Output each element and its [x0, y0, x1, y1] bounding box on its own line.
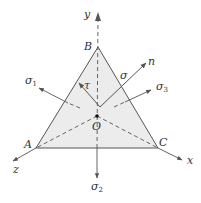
y-axis-arrowhead-icon	[95, 12, 101, 21]
label-c: C	[159, 137, 167, 148]
label-sigma: σ	[120, 70, 128, 81]
sigma2-symbol: σ	[91, 180, 99, 193]
sigma1-subscript: 1	[33, 80, 37, 88]
sigma3-subscript: 3	[164, 86, 168, 94]
label-sigma2: σ2	[91, 181, 103, 194]
label-a: A	[24, 139, 32, 150]
label-sigma1: σ1	[25, 75, 37, 88]
origin-point	[95, 114, 99, 118]
sigma2-subscript: 2	[99, 186, 103, 194]
label-o: O	[92, 121, 101, 132]
sigma1-arrow	[39, 88, 68, 103]
diagram-canvas: y B n σ τ σ1 σ3 O A C z x σ2	[0, 0, 201, 203]
sigma3-arrow	[125, 90, 151, 102]
label-x: x	[187, 155, 193, 166]
label-b: B	[84, 41, 92, 52]
label-z: z	[13, 164, 19, 175]
sigma3-symbol: σ	[156, 80, 164, 93]
x-axis-arrow	[158, 148, 182, 160]
sigma1-symbol: σ	[25, 74, 33, 87]
label-sigma3: σ3	[156, 81, 168, 94]
label-n: n	[148, 56, 155, 67]
label-y: y	[84, 9, 90, 20]
label-tau: τ	[84, 80, 90, 91]
diagram-svg	[0, 0, 201, 203]
